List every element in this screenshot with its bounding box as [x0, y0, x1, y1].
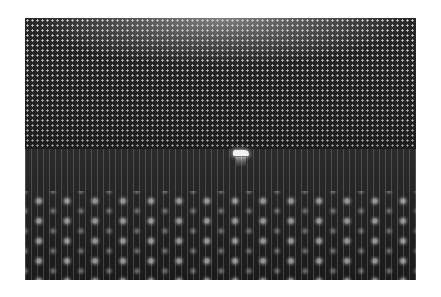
- inflatable-boat: [233, 150, 249, 156]
- floor-photomultiplier-tubes: [25, 191, 416, 280]
- wall-shading: [25, 18, 416, 170]
- boat-reflection: [236, 157, 246, 167]
- detector-photograph: [25, 18, 416, 280]
- page-canvas: [0, 0, 441, 297]
